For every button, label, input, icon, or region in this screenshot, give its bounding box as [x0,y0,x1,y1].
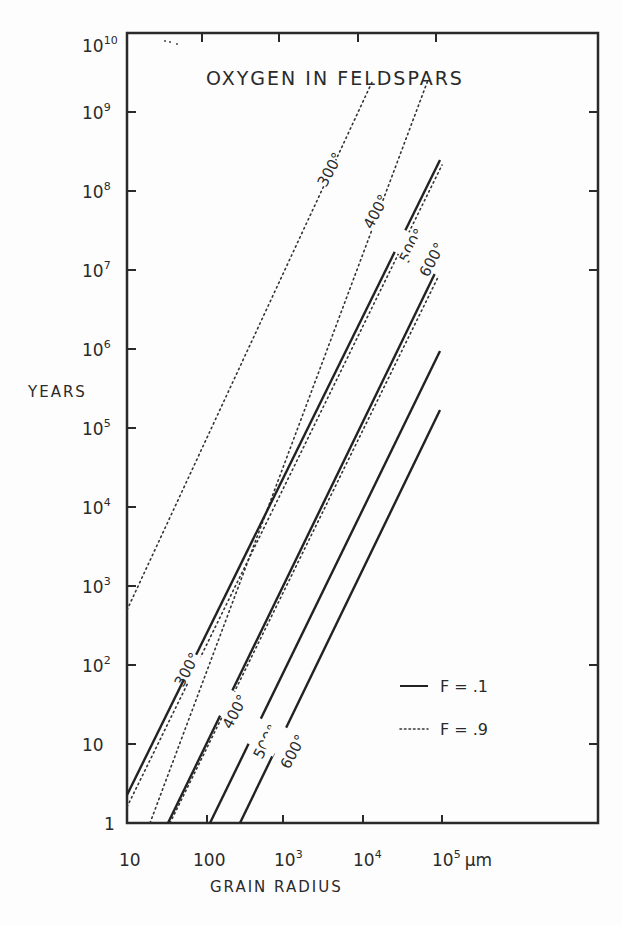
x-tick-labels: 10 100 103 104 105μm [119,848,492,870]
stray-mark [164,40,178,45]
y-axis-ticks [127,112,136,744]
series-f01 [127,160,440,823]
svg-text:105μm: 105μm [432,848,492,870]
line-600-f01 [240,410,440,823]
svg-text:103: 103 [82,575,111,597]
y-axis-right-ticks [589,112,598,744]
svg-text:104: 104 [82,496,111,518]
svg-text:106: 106 [82,338,111,360]
svg-text:100: 100 [193,850,225,870]
series-f09 [127,80,444,823]
svg-text:102: 102 [82,654,111,676]
svg-text:109: 109 [82,101,111,123]
line-300-f01 [127,160,440,795]
svg-text:1: 1 [104,814,115,834]
svg-text:10: 10 [119,850,141,870]
x-axis-top-ticks [202,33,436,42]
y-tick-labels: 1 10 102 103 104 105 106 107 108 109 101… [82,34,118,834]
line-500-f09 [127,165,442,807]
x-axis-title: GRAIN RADIUS [210,878,343,896]
svg-text:108: 108 [82,180,111,202]
svg-text:1010: 1010 [82,34,118,56]
svg-text:105: 105 [82,417,111,439]
line-400-f09 [150,80,428,823]
chart: 1 10 102 103 104 105 106 107 108 109 101… [0,0,622,925]
svg-text:107: 107 [82,259,111,281]
legend-solid-label: F = .1 [440,677,488,696]
y-axis-title: YEARS [27,383,87,401]
curve-labels-f09: 300° 400° 500° 600° [300,148,454,280]
svg-text:104: 104 [353,848,382,870]
line-500-f01 [210,351,440,823]
svg-text:10: 10 [82,735,104,755]
svg-text:103: 103 [274,848,303,870]
plot-frame [127,33,598,823]
legend: F = .1 F = .9 [400,677,488,739]
legend-dotted-label: F = .9 [440,720,488,739]
